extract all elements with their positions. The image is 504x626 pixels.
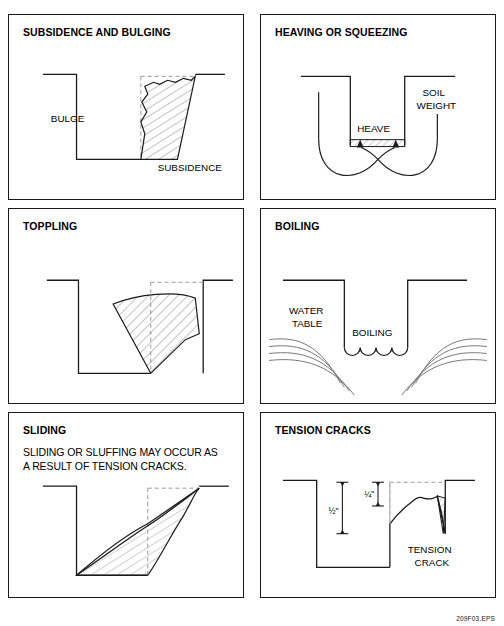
diagram-sliding <box>9 413 243 597</box>
bulge-mass <box>141 76 195 159</box>
diagram-tension-cracks: ¼" ½" TENSION CRACK <box>261 413 495 597</box>
label-soil: SOIL <box>423 87 446 98</box>
water-table-lines-left <box>269 339 354 395</box>
panel-sliding: SLIDING SLIDING OR SLUFFING MAY OCCUR AS… <box>8 412 244 598</box>
diagram-heaving: HEAVE SOIL WEIGHT <box>261 15 495 199</box>
panel-boiling: BOILING <box>260 208 496 404</box>
diagram-subsidence: BULGE SUBSIDENCE <box>9 15 243 199</box>
label-weight: WEIGHT <box>417 100 457 111</box>
dim-arrow-half-bottom <box>340 530 345 534</box>
panel-tension-cracks: TENSION CRACKS <box>260 412 496 598</box>
dim-arrow-quarter-bottom <box>376 502 381 506</box>
panel-toppling: TOPPLING <box>8 208 244 404</box>
label-bulge: BULGE <box>51 113 85 124</box>
excavation-wall-right <box>445 480 475 533</box>
toppling-block <box>113 294 199 373</box>
excavation-wall-right <box>408 280 467 347</box>
figure-id-label: 209F03.EPS <box>456 615 495 622</box>
excavation-wall-right <box>203 280 233 373</box>
tension-crack-wedge <box>437 496 445 534</box>
boiling-scallops <box>344 348 407 356</box>
diagram-toppling <box>9 209 243 403</box>
diagram-boiling: WATER TABLE BOILING <box>261 209 495 403</box>
dim-arrow-quarter-top <box>376 482 381 486</box>
arrow-stem-right <box>378 148 395 160</box>
water-table-lines-right <box>402 339 487 395</box>
panel-heaving-or-squeezing: HEAVING OR SQUEEZING <box>260 14 496 200</box>
figure-sheet: SUBSIDENCE AND BULGING BULGE SUBSIDENCE <box>0 0 504 626</box>
dim-arrow-half-top <box>340 482 345 486</box>
label-dim-half: ½" <box>329 506 339 516</box>
label-subsidence: SUBSIDENCE <box>158 162 223 173</box>
label-table: TABLE <box>292 318 323 329</box>
label-water: WATER <box>289 305 324 316</box>
label-heave: HEAVE <box>357 123 390 134</box>
label-boiling: BOILING <box>352 327 392 338</box>
arrow-stem-left <box>361 148 378 160</box>
panel-grid: SUBSIDENCE AND BULGING BULGE SUBSIDENCE <box>8 14 496 598</box>
label-dim-quarter: ¼" <box>364 489 374 499</box>
excavation-wall-left <box>301 76 350 145</box>
label-tension: TENSION <box>408 544 452 555</box>
panel-subsidence-and-bulging: SUBSIDENCE AND BULGING BULGE SUBSIDENCE <box>8 14 244 200</box>
label-crack: CRACK <box>415 557 450 568</box>
